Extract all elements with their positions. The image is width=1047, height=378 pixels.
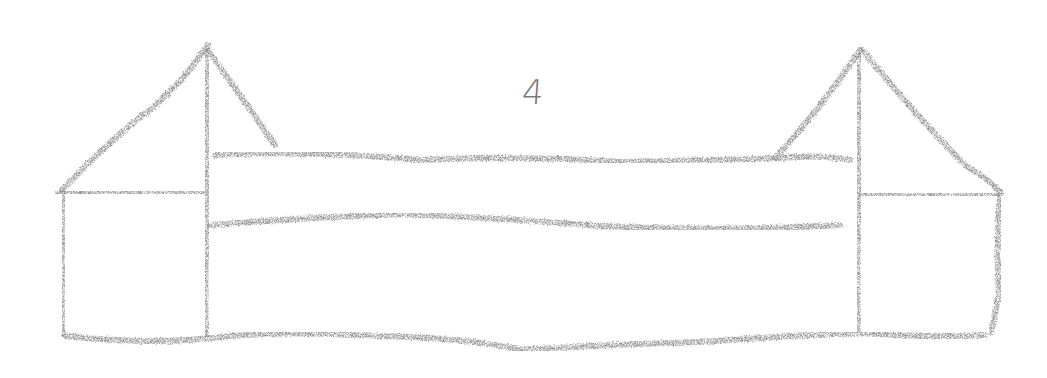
left-tower xyxy=(58,45,275,335)
right-tower xyxy=(775,50,1000,333)
right-outer-wall xyxy=(990,196,1000,333)
right-tower-center-post xyxy=(857,55,860,330)
sketch-number-label: 4 xyxy=(521,72,545,112)
right-roof-left-slope xyxy=(775,50,860,158)
left-outer-wall xyxy=(62,192,64,335)
left-eave-line xyxy=(58,191,206,193)
middle-top-line xyxy=(215,153,850,162)
base-line xyxy=(65,333,985,350)
left-roof-right-slope xyxy=(208,50,275,145)
right-roof-right-slope xyxy=(862,50,1000,192)
middle-center-line xyxy=(210,214,840,229)
left-roof-left-slope xyxy=(62,45,208,190)
sketch-canvas xyxy=(0,0,1047,378)
right-eave-line xyxy=(862,193,1000,195)
